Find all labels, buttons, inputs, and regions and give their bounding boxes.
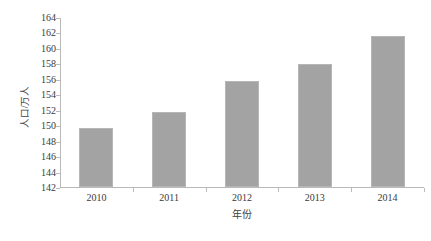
bar-group bbox=[60, 18, 424, 188]
y-axis-tick-label: 162 bbox=[30, 28, 56, 38]
y-axis-tick-label: 144 bbox=[30, 168, 56, 178]
y-axis-tick-label: 154 bbox=[30, 90, 56, 100]
x-axis-tick-label: 2014 bbox=[363, 191, 413, 204]
y-axis-tick-label-group: 142144146148150152154156158160162164 bbox=[30, 18, 56, 188]
x-axis-tick-label: 2011 bbox=[144, 191, 194, 204]
plot-area bbox=[60, 18, 424, 188]
y-axis-tick-label: 160 bbox=[30, 44, 56, 54]
y-axis-tick-label: 158 bbox=[30, 59, 56, 69]
y-axis-tick-label: 142 bbox=[30, 183, 56, 193]
bar bbox=[225, 81, 259, 187]
bar-chart: 人口/万人 1421441461481501521541561581601621… bbox=[0, 0, 431, 241]
bar bbox=[152, 112, 186, 187]
y-axis-tick-mark bbox=[56, 188, 60, 189]
y-axis-tick-label: 146 bbox=[30, 152, 56, 162]
x-axis-tick-label-group: 20102011201220132014 bbox=[60, 191, 424, 205]
bar bbox=[79, 128, 113, 187]
y-axis-tick-label: 164 bbox=[30, 13, 56, 23]
x-axis-title: 年份 bbox=[60, 208, 424, 221]
y-axis-tick-label: 152 bbox=[30, 106, 56, 116]
y-axis-tick-label: 156 bbox=[30, 75, 56, 85]
x-axis-tick-label: 2010 bbox=[71, 191, 121, 204]
x-axis-tick-label: 2012 bbox=[217, 191, 267, 204]
x-axis-tick-mark bbox=[424, 188, 425, 192]
bar bbox=[298, 64, 332, 187]
y-axis-tick-label: 150 bbox=[30, 121, 56, 131]
x-axis-tick-label: 2013 bbox=[290, 191, 340, 204]
y-axis-tick-label: 148 bbox=[30, 137, 56, 147]
bar bbox=[371, 36, 405, 187]
